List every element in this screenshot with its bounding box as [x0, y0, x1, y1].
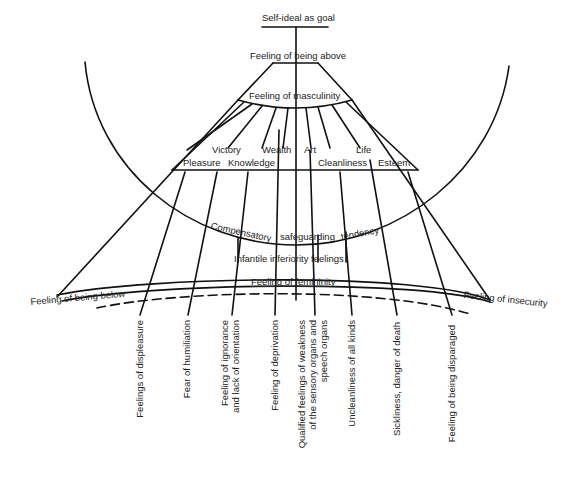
label-masculinity: Feeling of masculinity	[249, 91, 340, 101]
root-disparaged: Feeling of being disparaged	[447, 325, 458, 445]
label-wealth: Wealth	[262, 145, 291, 155]
root-displeasure: Feelings of displeasure	[135, 320, 146, 420]
label-esteem: Esteem	[378, 158, 410, 168]
label-safeguarding: safeguarding	[280, 232, 335, 242]
root-uncleanliness: Uncleanliness of all kinds	[347, 320, 358, 435]
label-cleanliness: Cleanliness	[318, 158, 367, 168]
root-ignorance: Feeling of ignorance and lack of orienta…	[220, 320, 242, 425]
label-victory: Victory	[212, 145, 241, 155]
root-sensory-weakness: Qualified feelings of weakness of the se…	[297, 320, 330, 455]
root-humiliation: Fear of humiliation	[182, 320, 193, 407]
label-pleasure: Pleasure	[183, 158, 221, 168]
label-being-above: Feeling of being above	[250, 51, 346, 61]
label-infantile: Infantile inferiority feelings	[234, 254, 344, 264]
cone-right	[352, 100, 490, 300]
masculinity-arc	[238, 100, 352, 108]
label-self-ideal: Self-ideal as goal	[262, 13, 335, 23]
femininity-dashed	[97, 294, 470, 314]
label-life: Life	[356, 145, 371, 155]
label-knowledge: Knowledge	[228, 158, 275, 168]
root-deprivation: Feeling of deprivation	[270, 320, 281, 420]
label-femininity: Feeling of femininity	[251, 277, 335, 287]
label-art: Art	[304, 145, 316, 155]
root-sickliness: Sickliness, danger of death	[392, 322, 403, 440]
